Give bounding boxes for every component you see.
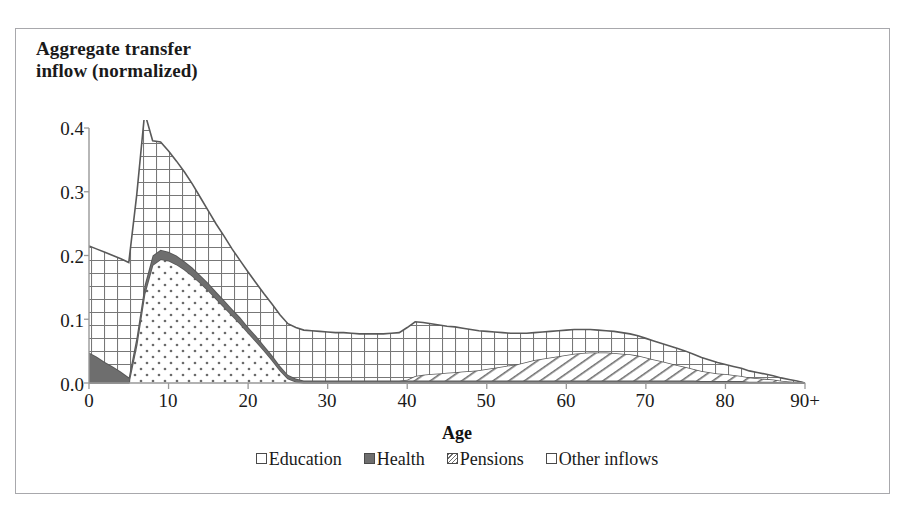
plot-area xyxy=(0,0,914,522)
chart-figure: Aggregate transfer inflow (normalized) 0… xyxy=(0,0,914,522)
